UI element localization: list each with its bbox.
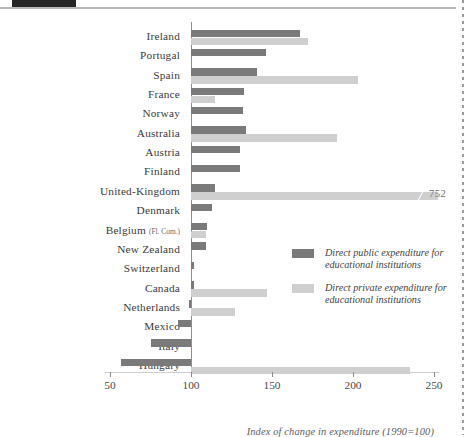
overflow-value-label: 752 [429, 188, 446, 199]
bar-public-bar [191, 281, 194, 288]
bar-public-bar [178, 320, 191, 327]
bar-public-bar [191, 107, 243, 114]
bar-private-bar [191, 134, 337, 141]
x-axis-tick [434, 372, 435, 377]
bar-row: Norway [0, 105, 456, 125]
legend-swatch-private [292, 284, 314, 293]
bar-private-bar [191, 96, 215, 103]
bar-row: United-Kingdom [0, 183, 456, 203]
legend-label-public: Direct public expenditure for educationa… [325, 247, 460, 272]
bar-public-bar [191, 165, 240, 172]
bar-public-bar [191, 88, 244, 95]
x-axis-tick [191, 372, 192, 377]
bar-private-bar [191, 192, 438, 199]
x-axis-tick-label: 150 [247, 379, 297, 391]
x-axis-caption: Index of change in expenditure (1990=100… [247, 426, 434, 437]
bar-group [0, 222, 456, 242]
legend-label-private: Direct private expenditure for education… [325, 282, 460, 307]
bar-row: Italy [0, 338, 456, 358]
bar-public-bar [191, 146, 240, 153]
bar-row: Australia [0, 125, 456, 145]
bar-public-bar [191, 68, 257, 75]
bar-private-bar [191, 231, 206, 238]
bar-group [0, 163, 456, 183]
legend-item-private: Direct private expenditure for education… [292, 282, 460, 308]
bar-group [0, 318, 456, 338]
bar-row: France [0, 86, 456, 106]
bar-group [0, 144, 456, 164]
bar-private-bar [191, 76, 358, 83]
bar-row: Ireland [0, 28, 456, 48]
header-rule [0, 7, 456, 9]
bar-row: Belgium (Fl. Com.) [0, 222, 456, 242]
x-axis-tick-label: 100 [166, 379, 216, 391]
bar-public-bar [191, 184, 215, 191]
bar-row: Finland [0, 163, 456, 183]
bar-row: Portugal [0, 47, 456, 67]
bar-group [0, 338, 456, 358]
x-axis-tick-label: 200 [328, 379, 378, 391]
bar-public-bar [191, 223, 207, 230]
header-band [0, 0, 466, 9]
x-axis-tick-label: 250 [409, 379, 459, 391]
page-margin-dots [462, 0, 464, 435]
bar-public-bar [121, 359, 191, 366]
bar-row: Denmark [0, 202, 456, 222]
bar-group [0, 183, 456, 203]
plot-region: IrelandPortugalSpainFranceNorwayAustrali… [0, 22, 456, 374]
bar-public-bar [151, 339, 192, 346]
bar-row: Austria [0, 144, 456, 164]
chart-legend: Direct public expenditure for educationa… [292, 247, 460, 317]
bar-group [0, 125, 456, 145]
bar-group [0, 47, 456, 67]
bar-group [0, 86, 456, 106]
x-axis: 50100150200250 [0, 372, 456, 404]
legend-swatch-public [292, 249, 314, 258]
bar-public-bar [191, 49, 266, 56]
bar-private-bar [191, 38, 308, 45]
bar-public-bar [189, 300, 191, 307]
bar-private-bar [191, 308, 235, 315]
bar-public-bar [191, 242, 206, 249]
bar-public-bar [191, 126, 246, 133]
legend-item-public: Direct public expenditure for educationa… [292, 247, 460, 273]
bar-row: Spain [0, 67, 456, 87]
x-axis-tick-label: 50 [85, 379, 135, 391]
axis-break-mark [416, 190, 427, 201]
bar-row: Mexico [0, 318, 456, 338]
bar-public-bar [191, 30, 300, 37]
bar-private-bar [191, 289, 267, 296]
bar-chart: IrelandPortugalSpainFranceNorwayAustrali… [0, 22, 456, 382]
bar-group [0, 67, 456, 87]
bar-group [0, 105, 456, 125]
bar-group [0, 28, 456, 48]
bar-group [0, 202, 456, 222]
x-axis-tick [272, 372, 273, 377]
x-axis-tick [110, 372, 111, 377]
bar-public-bar [191, 204, 212, 211]
header-tab-marker [12, 0, 76, 7]
bar-public-bar [191, 262, 194, 269]
x-axis-tick [353, 372, 354, 377]
